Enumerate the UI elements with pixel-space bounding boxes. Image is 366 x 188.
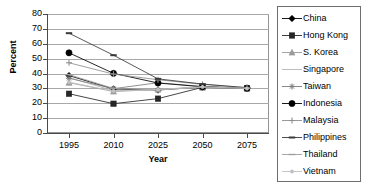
y-axis-tick-labels: 01020304050607080 — [0, 0, 42, 188]
legend-item-label: Taiwan — [303, 78, 331, 95]
legend-item-label: Indonesia — [303, 95, 342, 112]
y-axis-tick — [43, 103, 47, 104]
legend-item-taiwan[interactable]: Taiwan — [281, 78, 358, 95]
legend-marker — [289, 118, 295, 124]
y-axis-tick — [43, 74, 47, 75]
legend-item-label: Hong Kong — [303, 27, 348, 44]
y-axis-tick-label: 80 — [2, 9, 42, 18]
legend-item-label: Singapore — [303, 61, 344, 78]
x-axis-tick — [114, 133, 115, 138]
legend-item-philippines[interactable]: Philippines — [281, 129, 358, 146]
y-axis-tick-label: 20 — [2, 98, 42, 107]
y-axis-tick — [43, 118, 47, 119]
legend-key-icon — [281, 78, 303, 95]
legend-marker — [289, 154, 296, 155]
x-axis-title: Year — [47, 154, 269, 164]
gridline — [47, 44, 269, 45]
gridline — [47, 14, 269, 15]
gridline — [47, 74, 269, 75]
x-axis-tick — [69, 133, 70, 138]
x-axis-tick-label: 2010 — [94, 140, 134, 150]
gridline — [47, 103, 269, 104]
legend-key-icon — [281, 146, 303, 163]
y-axis-tick — [43, 88, 47, 89]
legend-item-vietnam[interactable]: Vietnam — [281, 163, 358, 180]
x-axis-tick-label: 2050 — [183, 140, 223, 150]
x-axis-tick-label: 2075 — [227, 140, 267, 150]
legend-item-china[interactable]: China — [281, 10, 358, 27]
legend-key-icon — [281, 95, 303, 112]
chart-screenshot: 01020304050607080 Percent 19952010202520… — [0, 0, 366, 188]
y-axis-tick-label: 10 — [2, 113, 42, 122]
legend-item-singapore[interactable]: Singapore — [281, 61, 358, 78]
chart-plot-container: 01020304050607080 Percent 19952010202520… — [0, 0, 272, 188]
legend-key-icon — [281, 61, 303, 78]
y-axis-tick — [43, 29, 47, 30]
legend-item-s-korea[interactable]: S. Korea — [281, 44, 358, 61]
legend-marker — [289, 15, 295, 21]
legend-key-icon — [281, 129, 303, 146]
legend-marker — [289, 33, 294, 38]
legend-key-icon — [281, 163, 303, 180]
legend-item-label: China — [303, 10, 327, 27]
legend-item-malaysia[interactable]: Malaysia — [281, 112, 358, 129]
y-axis-tick-label: 0 — [2, 128, 42, 137]
y-axis-tick — [43, 14, 47, 15]
y-axis-tick — [43, 44, 47, 45]
legend-item-label: Thailand — [303, 146, 338, 163]
x-axis-tick-label: 1995 — [49, 140, 89, 150]
legend-marker — [289, 137, 295, 139]
chart-legend: ChinaHong KongS. KoreaSingaporeTaiwanInd… — [277, 6, 361, 182]
y-axis-title: Percent — [8, 27, 18, 87]
x-axis-tick — [247, 133, 248, 138]
gridline — [47, 88, 269, 89]
legend-item-label: Malaysia — [303, 112, 339, 129]
legend-marker — [289, 84, 295, 90]
legend-key-icon — [281, 44, 303, 61]
legend-key-icon — [281, 10, 303, 27]
legend-item-label: Vietnam — [303, 163, 336, 180]
gridline — [47, 29, 269, 30]
legend-item-indonesia[interactable]: Indonesia — [281, 95, 358, 112]
legend-item-label: S. Korea — [303, 44, 338, 61]
x-axis-tick — [158, 133, 159, 138]
y-axis-tick — [43, 59, 47, 60]
x-axis-tick-label: 2025 — [138, 140, 178, 150]
legend-marker — [289, 100, 295, 106]
x-axis-tick — [203, 133, 204, 138]
y-axis-line — [47, 14, 48, 133]
legend-marker — [290, 170, 294, 174]
legend-item-label: Philippines — [303, 129, 347, 146]
legend-item-thailand[interactable]: Thailand — [281, 146, 358, 163]
gridline — [47, 59, 269, 60]
legend-item-hong-kong[interactable]: Hong Kong — [281, 27, 358, 44]
legend-key-icon — [281, 112, 303, 129]
legend-key-icon — [281, 27, 303, 44]
gridline — [47, 118, 269, 119]
